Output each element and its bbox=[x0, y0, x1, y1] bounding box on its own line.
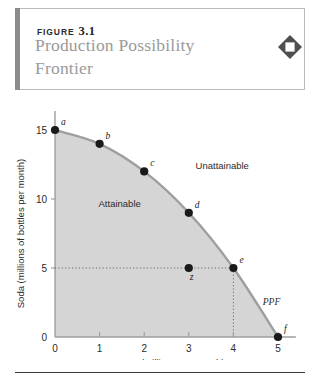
x-tick-label: 3 bbox=[186, 343, 192, 354]
data-point bbox=[140, 167, 148, 175]
data-point bbox=[185, 209, 193, 217]
figure-title: Production Possibility Frontier bbox=[35, 34, 250, 80]
curve-label: PPF bbox=[262, 297, 281, 307]
diamond-icon bbox=[277, 34, 303, 60]
figure-bottom-rule bbox=[15, 372, 305, 373]
data-point bbox=[51, 126, 59, 134]
y-tick-label: 5 bbox=[41, 263, 47, 274]
x-tick-label: 4 bbox=[231, 343, 237, 354]
data-point-label: z bbox=[189, 272, 194, 282]
x-axis-label: Tapes (millions per month) bbox=[113, 357, 224, 360]
data-point-label: e bbox=[239, 255, 243, 265]
data-point bbox=[229, 264, 237, 272]
x-tick-label: 0 bbox=[52, 343, 58, 354]
x-tick-label: 1 bbox=[97, 343, 103, 354]
y-tick-label: 0 bbox=[41, 332, 47, 343]
chart-area: 051015012345abcdefzUnattainableAttainabl… bbox=[0, 92, 318, 360]
data-point-label: b bbox=[106, 131, 111, 141]
ppf-chart: 051015012345abcdefzUnattainableAttainabl… bbox=[0, 92, 318, 360]
x-tick-label: 2 bbox=[141, 343, 147, 354]
y-tick-label: 15 bbox=[36, 125, 48, 136]
region-label: Unattainable bbox=[196, 160, 249, 171]
data-point-label: c bbox=[150, 158, 155, 168]
data-point-label: d bbox=[195, 200, 200, 210]
data-point-label: a bbox=[61, 117, 66, 127]
data-point bbox=[96, 140, 104, 148]
data-point-label: f bbox=[284, 324, 288, 334]
y-axis-label: Soda (millions of bottles per month) bbox=[15, 159, 26, 308]
x-tick-label: 5 bbox=[275, 343, 281, 354]
region-label: Attainable bbox=[99, 198, 141, 209]
y-tick-label: 10 bbox=[36, 194, 48, 205]
data-point bbox=[274, 333, 282, 341]
figure-header: FIGURE3.1 Production Possibility Frontie… bbox=[15, 8, 305, 90]
data-point bbox=[185, 264, 193, 272]
figure-container: FIGURE3.1 Production Possibility Frontie… bbox=[0, 0, 318, 384]
